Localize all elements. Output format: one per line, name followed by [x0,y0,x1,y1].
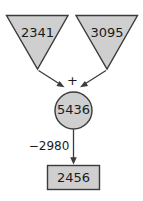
diagram-svg: 2341 3095 + 5436 −2980 [0,0,143,201]
edge-right-to-sum-line [84,71,106,85]
node-operand-right[interactable]: 3095 [76,16,138,70]
edge-right-to-sum [80,71,106,88]
diagram-canvas: 2341 3095 + 5436 −2980 [0,0,143,201]
node-sum[interactable]: 5436 [55,92,92,129]
node-operand-left[interactable]: 2341 [7,16,69,70]
result-value: 2456 [57,170,90,185]
addition-operator-symbol: + [67,73,78,88]
edge-left-to-sum [39,71,65,88]
node-result[interactable]: 2456 [48,166,100,190]
operand-right-value: 3095 [90,25,123,40]
operand-left-value: 2341 [21,25,54,40]
edge-sum-to-result: −2980 [29,130,77,165]
edge-sum-to-result-label: −2980 [29,139,70,153]
edge-sum-to-result-arrowhead [70,157,77,164]
edge-left-to-sum-line [39,71,61,85]
sum-value: 5436 [57,102,90,117]
